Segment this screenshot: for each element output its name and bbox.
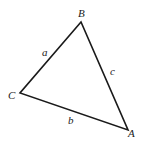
side-label-b: b (68, 114, 74, 126)
vertex-label-b: B (78, 7, 85, 19)
side-label-c: c (110, 65, 115, 77)
side-label-a: a (42, 46, 48, 58)
triangle-diagram: B C A a c b (0, 0, 144, 144)
vertex-label-c: C (8, 89, 16, 101)
vertex-label-a: A (127, 127, 135, 139)
